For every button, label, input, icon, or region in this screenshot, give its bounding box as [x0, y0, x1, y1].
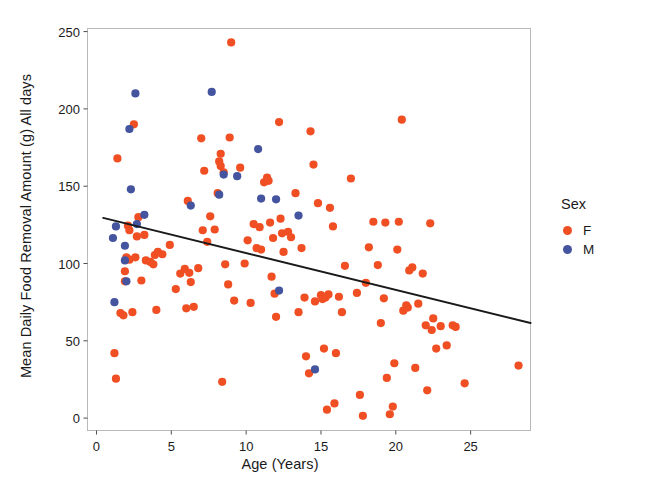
- data-point: [514, 361, 522, 369]
- data-point: [269, 234, 277, 242]
- legend-item-F[interactable]: F: [559, 221, 639, 240]
- legend-item-M[interactable]: M: [559, 240, 639, 259]
- data-point: [389, 402, 397, 410]
- data-point: [275, 286, 283, 294]
- data-point: [272, 313, 280, 321]
- data-point: [330, 399, 338, 407]
- data-point: [341, 262, 349, 270]
- data-point: [279, 248, 287, 256]
- data-point: [152, 306, 160, 314]
- data-point: [275, 118, 283, 126]
- data-point: [404, 303, 412, 311]
- y-tick-label: 100: [40, 256, 80, 271]
- data-point: [110, 349, 118, 357]
- data-point: [452, 323, 460, 331]
- data-point: [208, 88, 216, 96]
- data-point: [437, 322, 445, 330]
- data-point: [187, 201, 195, 209]
- data-point: [211, 225, 219, 233]
- y-tick-label: 150: [40, 179, 80, 194]
- data-point: [125, 226, 133, 234]
- data-point: [206, 212, 214, 220]
- data-point: [356, 391, 364, 399]
- y-tick-label: 200: [40, 101, 80, 116]
- data-point: [254, 145, 262, 153]
- y-tick-label: 50: [40, 333, 80, 348]
- data-point: [122, 277, 130, 285]
- data-point: [423, 386, 431, 394]
- legend-marker-F-icon: [563, 226, 572, 235]
- legend-label: M: [583, 242, 594, 257]
- data-point: [332, 349, 340, 357]
- data-point: [395, 218, 403, 226]
- x-tick-label: 15: [314, 439, 328, 454]
- data-point: [329, 222, 337, 230]
- data-point: [113, 154, 121, 162]
- data-point: [140, 211, 148, 219]
- data-point: [241, 259, 249, 267]
- legend-marker-M-icon: [563, 245, 572, 254]
- legend-entries: FM: [559, 221, 639, 259]
- x-tick-label: 5: [168, 439, 175, 454]
- y-tick-label: 250: [40, 24, 80, 39]
- data-point: [140, 231, 148, 239]
- data-point: [121, 256, 129, 264]
- data-point: [264, 177, 272, 185]
- data-point: [381, 218, 389, 226]
- x-tick-label: 20: [389, 439, 403, 454]
- y-axis-title: Mean Daily Food Removal Amount (g) All d…: [18, 16, 34, 436]
- y-tick-label: 0: [40, 411, 80, 426]
- data-point: [247, 299, 255, 307]
- data-point: [411, 364, 419, 372]
- data-point: [398, 116, 406, 124]
- data-point: [369, 218, 377, 226]
- data-point: [110, 298, 118, 306]
- data-point: [121, 267, 129, 275]
- data-point: [306, 127, 314, 135]
- data-point: [137, 276, 145, 284]
- data-point: [323, 406, 331, 414]
- data-point: [221, 260, 229, 268]
- scatter-plot-figure: 0501001502002500510152025 Age (Years) Me…: [0, 0, 645, 485]
- data-point: [215, 191, 223, 199]
- data-point: [200, 167, 208, 175]
- data-point: [320, 344, 328, 352]
- data-point: [236, 164, 244, 172]
- data-point: [224, 280, 232, 288]
- data-point: [461, 379, 469, 387]
- legend-title: Sex: [561, 196, 639, 212]
- data-point: [187, 278, 195, 286]
- data-point: [386, 410, 394, 418]
- data-point: [125, 125, 133, 133]
- data-point: [326, 204, 334, 212]
- data-point: [353, 289, 361, 297]
- legend: Sex FM: [559, 196, 639, 259]
- data-point: [429, 314, 437, 322]
- data-point: [182, 304, 190, 312]
- data-point: [393, 246, 401, 254]
- data-point: [335, 293, 343, 301]
- data-point: [432, 344, 440, 352]
- data-point: [166, 241, 174, 249]
- data-point: [244, 236, 252, 244]
- data-point: [133, 232, 141, 240]
- data-point: [233, 172, 241, 180]
- data-point: [112, 375, 120, 383]
- data-point: [300, 293, 308, 301]
- data-point: [257, 246, 265, 254]
- data-point: [172, 285, 180, 293]
- x-axis-title: Age (Years): [0, 456, 560, 472]
- data-point: [374, 261, 382, 269]
- data-point: [347, 174, 355, 182]
- data-point: [217, 150, 225, 158]
- data-point: [266, 218, 274, 226]
- data-point: [230, 297, 238, 305]
- data-point: [158, 250, 166, 258]
- data-point: [294, 308, 302, 316]
- data-point: [338, 308, 346, 316]
- data-point: [131, 253, 139, 261]
- data-point: [194, 264, 202, 272]
- data-point: [311, 297, 319, 305]
- data-point: [377, 319, 385, 327]
- data-point: [267, 273, 275, 281]
